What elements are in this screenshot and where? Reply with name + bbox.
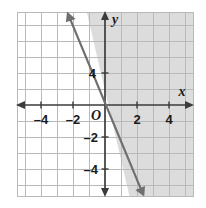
x-tick-label--2: –2 <box>66 112 80 127</box>
y-tick-label-4: 4 <box>89 66 97 81</box>
x-tick-label--4: –4 <box>34 112 49 127</box>
y-tick-label--2: –2 <box>84 130 98 145</box>
origin-label: O <box>91 108 101 123</box>
x-tick-label-4: 4 <box>165 112 173 127</box>
x-tick-label-2: 2 <box>133 112 140 127</box>
graph-canvas: –4 –2 2 4 4 –2 –4 O y x <box>0 0 206 208</box>
y-tick-label--4: –4 <box>84 162 99 177</box>
y-axis-label: y <box>110 12 119 27</box>
x-axis-label: x <box>178 84 186 99</box>
coordinate-plane-figure: –4 –2 2 4 4 –2 –4 O y x <box>0 0 206 208</box>
